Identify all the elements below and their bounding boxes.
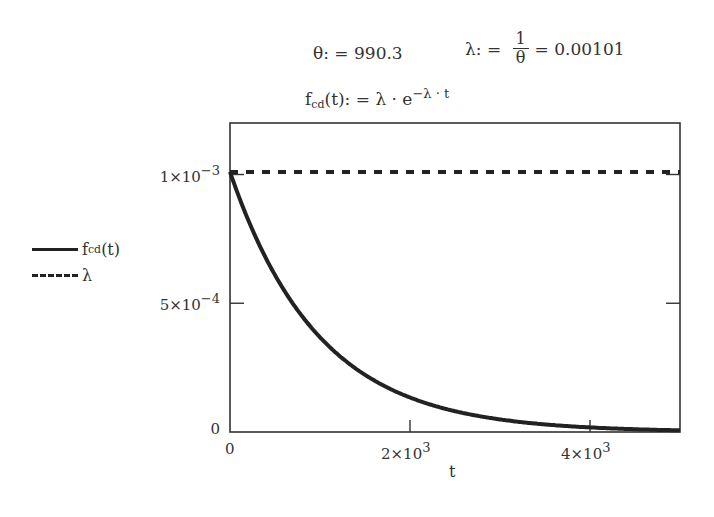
y-tick-label: 1×10−3 — [160, 163, 220, 186]
fcd-curve — [230, 172, 680, 430]
x-tick-label: 0 — [225, 440, 235, 458]
x-tick-label: 4×103 — [561, 440, 610, 463]
y-tick-label: 5×10−4 — [160, 291, 220, 314]
plot-frame — [230, 123, 680, 432]
y-ticks — [230, 175, 680, 304]
x-tick-label: 2×103 — [381, 440, 430, 463]
y-tick-label: 0 — [210, 420, 220, 438]
x-axis-label: t — [449, 462, 455, 481]
